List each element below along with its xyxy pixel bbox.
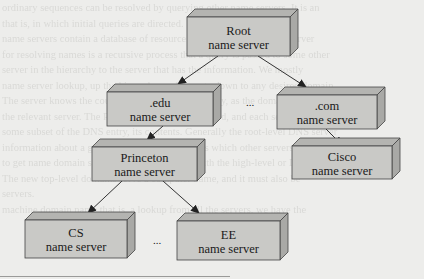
node-subtitle: name server xyxy=(130,110,192,124)
box-top-face xyxy=(177,213,288,221)
node-subtitle: name server xyxy=(312,164,374,178)
edges-layer xyxy=(88,56,342,213)
box-side-face xyxy=(127,212,135,258)
node-subtitle: name server xyxy=(297,113,359,127)
node-title: .com xyxy=(315,99,340,113)
node-root-name-server: Rootname server xyxy=(187,9,298,56)
nodes-layer: Rootname server.eduname server.comname s… xyxy=(25,9,400,260)
box-top-face xyxy=(292,138,400,146)
node-ee-name-server: EEname server xyxy=(177,213,288,260)
diagram-canvas: ordinary sequences can be resolved by qu… xyxy=(0,0,424,279)
box-top-face xyxy=(92,139,205,147)
arrow-root-to-edu xyxy=(178,56,218,84)
ellipsis-tld: ... xyxy=(246,96,255,108)
node-title: Princeton xyxy=(121,151,170,165)
arrow-root-to-com xyxy=(258,56,306,87)
node-title: .edu xyxy=(149,96,171,110)
arrow-princeton-to-ee xyxy=(163,181,199,213)
box-side-face xyxy=(280,213,288,260)
box-side-face xyxy=(197,139,205,181)
dns-hierarchy-diagram: Rootname server.eduname server.comname s… xyxy=(0,0,424,279)
node-subtitle: name server xyxy=(46,240,108,254)
node-subtitle: name server xyxy=(114,165,176,179)
node-title: Root xyxy=(226,24,251,38)
arrow-princeton-to-cs xyxy=(88,181,122,213)
node-subtitle: name server xyxy=(198,242,260,256)
node-title: Cisco xyxy=(328,150,356,164)
node-subtitle: name server xyxy=(208,38,270,52)
node-cisco-name-server: Cisconame server xyxy=(292,138,400,179)
box-top-face xyxy=(187,9,298,17)
node-title: CS xyxy=(68,226,83,240)
box-side-face xyxy=(213,84,221,126)
node-edu-name-server: .eduname server xyxy=(107,84,221,126)
arrow-edu-to-princeton xyxy=(147,126,163,140)
box-side-face xyxy=(377,87,385,129)
node-princeton-name-server: Princetonname server xyxy=(92,139,205,181)
node-com-name-server: .comname server xyxy=(277,87,385,129)
box-side-face xyxy=(290,9,298,56)
box-top-face xyxy=(107,84,221,92)
ellipsis-dept: ... xyxy=(153,234,162,246)
box-top-face xyxy=(25,212,135,220)
box-top-face xyxy=(277,87,385,95)
node-cs-name-server: CSname server xyxy=(25,212,135,258)
node-title: EE xyxy=(221,228,237,242)
